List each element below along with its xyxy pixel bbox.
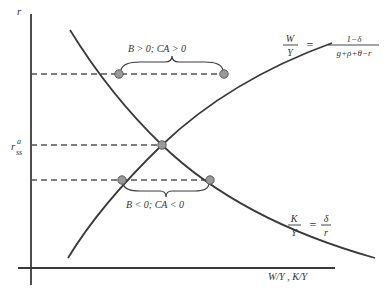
lower-annotation: B < 0; CA < 0 bbox=[126, 199, 184, 210]
wealth-equation: W Y = 1−δ g+ρ+θ−r bbox=[283, 33, 379, 58]
steady-state-rate-sup: a bbox=[17, 137, 21, 146]
capital-curve bbox=[68, 43, 332, 258]
point-lower-right bbox=[206, 176, 214, 184]
capital-rhs-num: δ bbox=[324, 213, 329, 224]
y-axis-label: r bbox=[17, 5, 22, 17]
capital-equals: = bbox=[310, 218, 317, 232]
capital-lhs-den: Y bbox=[291, 227, 298, 238]
capital-equation: K Y = δ r bbox=[288, 213, 331, 238]
capital-rhs-den: r bbox=[324, 227, 328, 238]
point-lower-left bbox=[118, 176, 126, 184]
upper-annotation: B > 0; CA > 0 bbox=[128, 43, 186, 54]
point-upper-left bbox=[115, 70, 123, 78]
capital-lhs-num: K bbox=[290, 213, 299, 224]
x-axis-label: W/Y , K/Y bbox=[268, 271, 309, 282]
wealth-rhs-den: g+ρ+θ−r bbox=[337, 48, 372, 58]
wealth-rhs-num: 1−δ bbox=[347, 34, 363, 44]
diagram-canvas: r W/Y , K/Y r a ss B > 0; CA > 0 B < 0; … bbox=[0, 0, 387, 292]
wealth-lhs-num: W bbox=[286, 33, 296, 44]
wealth-lhs-den: Y bbox=[287, 47, 294, 58]
point-steady-state bbox=[158, 141, 166, 149]
wealth-curve bbox=[70, 30, 375, 258]
point-upper-right bbox=[220, 70, 228, 78]
wealth-equals: = bbox=[307, 38, 314, 52]
steady-state-rate-sub: ss bbox=[16, 148, 22, 157]
upper-brace bbox=[121, 56, 223, 70]
lower-brace bbox=[123, 184, 209, 197]
